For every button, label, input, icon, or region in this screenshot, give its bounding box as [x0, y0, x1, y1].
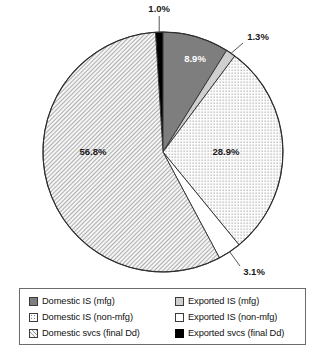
pie-value-label-domestic-is-non-mfg: 28.9% [213, 146, 240, 157]
legend-swatch-dots-icon [29, 313, 38, 322]
legend-swatch-solid-dark-gray-icon [29, 297, 38, 306]
legend-label: Domestic svcs (final Dd) [42, 325, 140, 341]
legend-swatch-diagonal-hatch-icon [29, 329, 38, 338]
legend-item-domestic-is-mfg[interactable]: Domestic IS (mfg) [29, 293, 175, 309]
legend-label: Exported IS (non-mfg) [188, 309, 277, 325]
pie-chart-figure: 1.0% 8.9% 1.3% 28.9% 3.1% 56.8% Domestic… [0, 0, 325, 364]
legend-item-exported-is-non-mfg[interactable]: Exported IS (non-mfg) [175, 309, 316, 325]
legend-item-exported-is-mfg[interactable]: Exported IS (mfg) [175, 293, 316, 309]
legend-item-domestic-svcs-final-dd[interactable]: Domestic svcs (final Dd) [29, 325, 175, 341]
legend-grid: Domestic IS (mfg) Exported IS (mfg) Dome… [20, 293, 305, 341]
legend-item-exported-svcs-final-dd[interactable]: Exported svcs (final Dd) [175, 325, 316, 341]
leader-line-exported-is-non-mfg [230, 252, 240, 266]
legend-swatch-solid-black-icon [175, 329, 184, 338]
legend-label: Domestic IS (non-mfg) [42, 309, 133, 325]
pie-value-label-exported-svcs: 1.0% [148, 3, 170, 14]
legend-label: Exported svcs (final Dd) [188, 325, 284, 341]
legend-label: Domestic IS (mfg) [42, 293, 115, 309]
pie-value-label-exported-is-mfg: 1.3% [247, 31, 269, 42]
legend-swatch-solid-light-gray-icon [175, 297, 184, 306]
legend-label: Exported IS (mfg) [188, 293, 259, 309]
chart-legend: Domestic IS (mfg) Exported IS (mfg) Dome… [19, 288, 306, 345]
legend-swatch-solid-white-icon [175, 313, 184, 322]
legend-item-domestic-is-non-mfg[interactable]: Domestic IS (non-mfg) [29, 309, 175, 325]
pie-value-label-domestic-svcs: 56.8% [80, 146, 107, 157]
pie-value-label-exported-is-non-mfg: 3.1% [243, 266, 265, 277]
leader-line-exported-is-mfg [231, 43, 243, 53]
pie-value-label-domestic-is-mfg: 8.9% [184, 53, 206, 64]
